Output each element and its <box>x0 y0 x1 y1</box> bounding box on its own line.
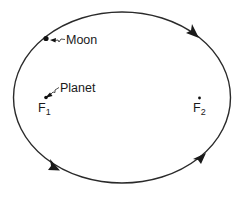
orbit-arrow-bottom-right <box>193 153 206 164</box>
focus2-subscript: 2 <box>201 107 206 117</box>
planet-pointer-arrow <box>45 88 59 99</box>
planet-label: Planet <box>60 81 96 95</box>
orbit-arrow-top-right <box>186 24 199 38</box>
moon-label: Moon <box>66 33 97 47</box>
focus2-label: F2 <box>193 101 206 117</box>
focus2-dot <box>198 97 201 100</box>
moon-pointer-arrow <box>50 38 65 43</box>
orbit-diagram: Moon Planet F1 F2 <box>0 0 242 198</box>
moon-dot <box>43 36 48 41</box>
focus1-subscript: 1 <box>46 107 51 117</box>
focus1-label: F1 <box>38 101 51 117</box>
